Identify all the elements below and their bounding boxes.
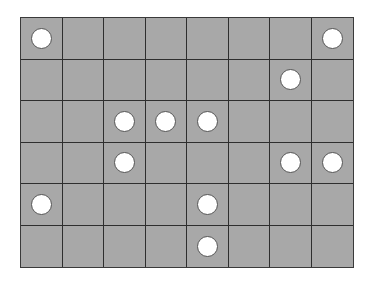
board-cell-r5-c5[interactable]: [229, 226, 271, 268]
board-cell-r3-c7[interactable]: [312, 143, 354, 185]
board-cell-r2-c3[interactable]: [146, 101, 188, 143]
board-cell-r1-c1[interactable]: [63, 60, 105, 102]
white-piece-icon[interactable]: [322, 28, 343, 49]
board-cell-r4-c5[interactable]: [229, 184, 271, 226]
board-cell-r5-c1[interactable]: [63, 226, 105, 268]
board-cell-r0-c1[interactable]: [63, 18, 105, 60]
board-cell-r3-c4[interactable]: [187, 143, 229, 185]
board-cell-r2-c7[interactable]: [312, 101, 354, 143]
white-piece-icon[interactable]: [197, 194, 218, 215]
white-piece-icon[interactable]: [197, 111, 218, 132]
board-cell-r2-c6[interactable]: [270, 101, 312, 143]
board-cell-r0-c0[interactable]: [21, 18, 63, 60]
board-cell-r3-c2[interactable]: [104, 143, 146, 185]
white-piece-icon[interactable]: [31, 28, 52, 49]
game-board: [20, 17, 354, 268]
board-cell-r2-c2[interactable]: [104, 101, 146, 143]
board-cell-r5-c7[interactable]: [312, 226, 354, 268]
board-cell-r0-c6[interactable]: [270, 18, 312, 60]
board-cell-r1-c7[interactable]: [312, 60, 354, 102]
board-cell-r2-c0[interactable]: [21, 101, 63, 143]
board-cell-r4-c0[interactable]: [21, 184, 63, 226]
board-cell-r4-c4[interactable]: [187, 184, 229, 226]
board-cell-r1-c4[interactable]: [187, 60, 229, 102]
board-cell-r5-c0[interactable]: [21, 226, 63, 268]
white-piece-icon[interactable]: [197, 236, 218, 257]
board-cell-r4-c7[interactable]: [312, 184, 354, 226]
board-cell-r5-c6[interactable]: [270, 226, 312, 268]
board-cell-r3-c6[interactable]: [270, 143, 312, 185]
board-cell-r5-c3[interactable]: [146, 226, 188, 268]
board-cell-r2-c1[interactable]: [63, 101, 105, 143]
board-cell-r0-c4[interactable]: [187, 18, 229, 60]
board-cell-r2-c5[interactable]: [229, 101, 271, 143]
board-cell-r1-c5[interactable]: [229, 60, 271, 102]
white-piece-icon[interactable]: [155, 111, 176, 132]
board-cell-r0-c2[interactable]: [104, 18, 146, 60]
board-cell-r4-c1[interactable]: [63, 184, 105, 226]
white-piece-icon[interactable]: [280, 69, 301, 90]
white-piece-icon[interactable]: [31, 194, 52, 215]
board-cell-r4-c3[interactable]: [146, 184, 188, 226]
board-cell-r5-c2[interactable]: [104, 226, 146, 268]
board-cell-r0-c7[interactable]: [312, 18, 354, 60]
white-piece-icon[interactable]: [114, 152, 135, 173]
board-cell-r5-c4[interactable]: [187, 226, 229, 268]
board-cell-r4-c6[interactable]: [270, 184, 312, 226]
board-cell-r3-c5[interactable]: [229, 143, 271, 185]
board-cell-r4-c2[interactable]: [104, 184, 146, 226]
white-piece-icon[interactable]: [322, 152, 343, 173]
board-cell-r1-c6[interactable]: [270, 60, 312, 102]
board-cell-r0-c5[interactable]: [229, 18, 271, 60]
board-cell-r3-c3[interactable]: [146, 143, 188, 185]
board-cell-r0-c3[interactable]: [146, 18, 188, 60]
board-cell-r2-c4[interactable]: [187, 101, 229, 143]
white-piece-icon[interactable]: [280, 152, 301, 173]
white-piece-icon[interactable]: [114, 111, 135, 132]
board-cell-r3-c0[interactable]: [21, 143, 63, 185]
board-cell-r1-c2[interactable]: [104, 60, 146, 102]
board-cell-r1-c3[interactable]: [146, 60, 188, 102]
board-cell-r1-c0[interactable]: [21, 60, 63, 102]
board-cell-r3-c1[interactable]: [63, 143, 105, 185]
